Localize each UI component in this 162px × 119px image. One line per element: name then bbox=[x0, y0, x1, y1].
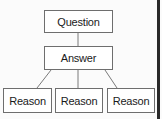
node-question: Question bbox=[44, 10, 113, 33]
node-answer-label: Answer bbox=[61, 52, 96, 64]
node-reason-label: Reason bbox=[61, 95, 98, 107]
edge-answer-reason-1 bbox=[37, 70, 51, 88]
node-reason-label: Reason bbox=[113, 95, 150, 107]
node-answer: Answer bbox=[44, 46, 113, 70]
node-reason-3: Reason bbox=[107, 88, 155, 113]
node-reason-label: Reason bbox=[9, 95, 46, 107]
node-question-label: Question bbox=[57, 16, 99, 28]
edge-answer-reason-3 bbox=[105, 70, 117, 88]
node-reason-1: Reason bbox=[3, 88, 52, 113]
node-reason-2: Reason bbox=[55, 88, 103, 113]
